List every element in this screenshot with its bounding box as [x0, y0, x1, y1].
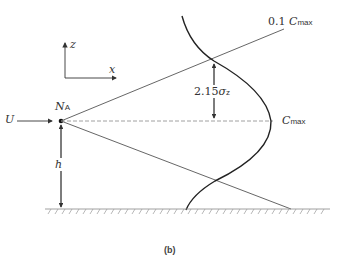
wind-label: U	[5, 113, 14, 126]
upper-plume-edge	[61, 29, 284, 121]
spread-label: 2.15σz	[194, 85, 230, 98]
lower-plume-edge	[61, 121, 291, 209]
x-axis-label: x	[109, 63, 115, 76]
cmax-label: Cmax	[282, 114, 306, 127]
concentration-profile	[182, 16, 271, 210]
source-label: NA	[55, 100, 70, 113]
ground-hatch	[45, 209, 330, 214]
figure-caption: (b)	[164, 245, 176, 255]
z-axis-label: z	[70, 38, 76, 51]
upper-edge-label: 0.1 Cmax	[268, 15, 313, 28]
height-label: h	[55, 158, 62, 171]
plume-diagram	[0, 0, 339, 260]
